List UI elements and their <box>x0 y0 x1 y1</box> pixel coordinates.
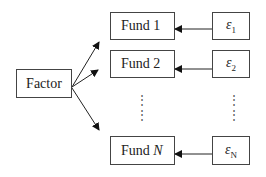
fund-prefix: Fund <box>121 143 153 158</box>
arrow-factor-fund2 <box>72 70 98 87</box>
epsilon-node-n: εN <box>212 136 250 165</box>
factor-label: Factor <box>26 76 62 92</box>
factor-node: Factor <box>16 69 72 98</box>
epsilon-node-1: ε1 <box>212 12 250 40</box>
factor-model-diagram: Factor Fund 1 Fund 2 Fund N ε1 ε2 εN ⋮⋮ … <box>0 0 266 177</box>
ellipsis-funds: ⋮⋮ <box>136 96 148 120</box>
epsilon-label: ε2 <box>226 55 236 73</box>
epsilon-node-2: ε2 <box>212 50 250 78</box>
ellipsis-epsilons: ⋮⋮ <box>228 96 240 120</box>
fund-node-2: Fund 2 <box>110 50 175 78</box>
fund-label: Fund 1 <box>121 18 160 34</box>
arrow-factor-fundn <box>72 88 99 130</box>
epsilon-label: εN <box>225 142 237 160</box>
epsilon-label: ε1 <box>226 17 236 35</box>
fund-index: N <box>153 143 162 158</box>
fund-node-1: Fund 1 <box>110 12 175 40</box>
fund-label: Fund N <box>121 143 163 159</box>
fund-node-n: Fund N <box>110 136 175 165</box>
arrow-factor-fund1 <box>72 42 99 87</box>
fund-label: Fund 2 <box>121 56 160 72</box>
